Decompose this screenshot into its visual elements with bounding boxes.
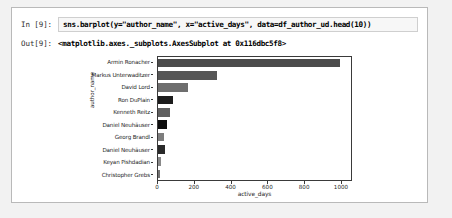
bar <box>158 170 160 179</box>
x-axis-tick-label: 0 <box>155 184 159 190</box>
screenshot-root: In [9]: sns.barplot(y="author_name", x="… <box>0 0 452 218</box>
y-axis-tick-label: Georg Brandl <box>65 131 153 144</box>
y-axis-tick-mark <box>151 149 154 150</box>
code-input-text: sns.barplot(y="author_name", x="active_d… <box>63 20 371 29</box>
notebook-cell-frame: In [9]: sns.barplot(y="author_name", x="… <box>11 7 428 203</box>
y-axis-tick-label: Christopher Grebs <box>65 169 153 182</box>
bar-slot <box>158 131 351 143</box>
code-input-box[interactable]: sns.barplot(y="author_name", x="active_d… <box>58 17 418 32</box>
output-cell-row: Out[9]: <matplotlib.axes._subplots.AxesS… <box>12 34 427 52</box>
y-axis-tick-mark <box>151 87 154 88</box>
plot-area <box>157 56 352 181</box>
bar <box>158 145 165 154</box>
bar <box>158 59 340 68</box>
bar-slot <box>158 143 351 155</box>
y-axis-tick-label: Keyan Pishdadian <box>65 156 153 169</box>
x-axis-label: active_days <box>157 191 352 197</box>
y-axis-tick-labels: Armin RonacherMarkus UnterwaditzerDavid … <box>65 56 153 181</box>
bar <box>158 71 217 80</box>
x-axis-tick-label: 200 <box>188 184 199 190</box>
output-repr-text: <matplotlib.axes._subplots.AxesSubplot a… <box>58 39 286 48</box>
y-axis-tick-mark <box>151 62 154 63</box>
bar-slot <box>158 94 351 106</box>
bar-slot <box>158 57 351 69</box>
y-axis-tick-mark <box>151 162 154 163</box>
x-axis-tick-label: 400 <box>225 184 236 190</box>
y-axis-tick-label: Daniel Neuhäuser <box>65 144 153 157</box>
bar <box>158 120 167 129</box>
y-axis-tick-mark <box>151 112 154 113</box>
y-axis-tick-label: Markus Unterwaditzer <box>65 69 153 82</box>
y-axis-tick-mark <box>151 74 154 75</box>
bar-slot <box>158 155 351 167</box>
bar <box>158 96 173 105</box>
x-axis-tick-label: 800 <box>299 184 310 190</box>
y-axis-tick-mark <box>151 137 154 138</box>
y-axis-tick-label: Ron DuPlain <box>65 94 153 107</box>
x-axis-tick-label: 600 <box>262 184 273 190</box>
bar-slot <box>158 168 351 180</box>
y-axis-tick-mark <box>151 124 154 125</box>
y-axis-tick-label: David Lord <box>65 81 153 94</box>
output-prompt-label: Out[9]: <box>12 39 58 48</box>
y-axis-tick-mark <box>151 174 154 175</box>
bar-slot <box>158 69 351 81</box>
y-axis-tick-label: Kenneth Reitz <box>65 106 153 119</box>
y-axis-tick-label: Daniel Neuhäuser <box>65 119 153 132</box>
bar-slot <box>158 106 351 118</box>
bar-slot <box>158 82 351 94</box>
bar <box>158 83 188 92</box>
matplotlib-figure: author_name Armin RonacherMarkus Unterwa… <box>40 51 400 201</box>
x-axis-tick-label: 1000 <box>334 184 348 190</box>
y-axis-tick-mark <box>151 99 154 100</box>
y-axis-tick-label: Armin Ronacher <box>65 56 153 69</box>
bar-series <box>158 57 351 180</box>
bar <box>158 133 164 142</box>
bar <box>158 108 170 117</box>
bar <box>158 157 161 166</box>
input-cell-row: In [9]: sns.barplot(y="author_name", x="… <box>12 15 427 33</box>
bar-slot <box>158 118 351 130</box>
input-prompt-label: In [9]: <box>12 20 58 29</box>
